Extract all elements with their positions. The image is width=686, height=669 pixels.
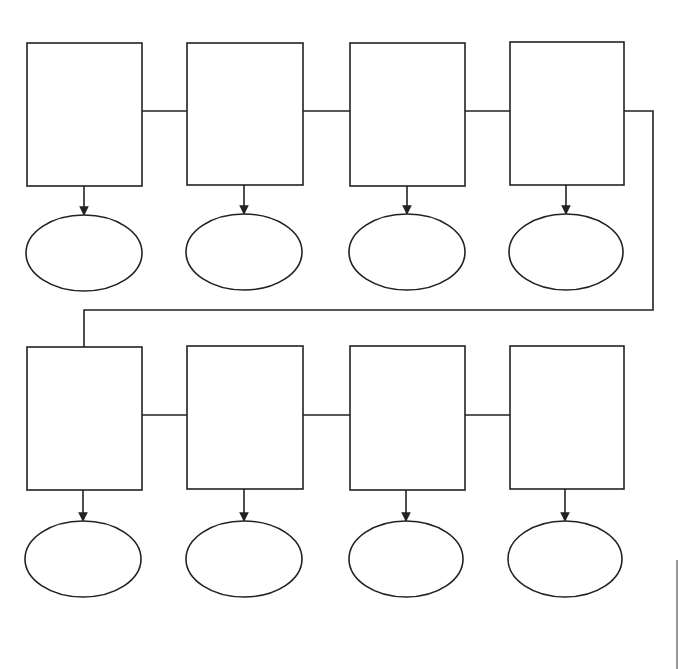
process-box[interactable] <box>187 346 303 489</box>
detail-oval[interactable] <box>26 215 142 291</box>
detail-oval[interactable] <box>508 521 622 597</box>
detail-oval[interactable] <box>186 214 302 290</box>
detail-oval-shape <box>508 521 622 597</box>
process-box-rect <box>27 347 142 490</box>
process-box[interactable] <box>27 347 142 490</box>
detail-oval-shape <box>349 521 463 597</box>
process-box[interactable] <box>510 42 624 185</box>
detail-oval-shape <box>25 521 141 597</box>
detail-oval[interactable] <box>509 214 623 290</box>
detail-oval[interactable] <box>349 214 465 290</box>
process-box-rect <box>510 346 624 489</box>
detail-oval[interactable] <box>25 521 141 597</box>
process-box-rect <box>27 43 142 186</box>
process-box[interactable] <box>510 346 624 489</box>
process-box[interactable] <box>350 346 465 490</box>
process-box-rect <box>187 346 303 489</box>
process-box-rect <box>187 43 303 185</box>
process-box[interactable] <box>187 43 303 185</box>
flowchart-diagram <box>0 0 686 669</box>
detail-oval[interactable] <box>186 521 302 597</box>
detail-oval-shape <box>186 214 302 290</box>
shapes-layer <box>25 42 624 597</box>
process-box-rect <box>510 42 624 185</box>
process-box-rect <box>350 43 465 186</box>
detail-oval-shape <box>349 214 465 290</box>
detail-oval-shape <box>186 521 302 597</box>
detail-oval-shape <box>26 215 142 291</box>
process-box[interactable] <box>350 43 465 186</box>
detail-oval-shape <box>509 214 623 290</box>
process-box-rect <box>350 346 465 490</box>
process-box[interactable] <box>27 43 142 186</box>
detail-oval[interactable] <box>349 521 463 597</box>
